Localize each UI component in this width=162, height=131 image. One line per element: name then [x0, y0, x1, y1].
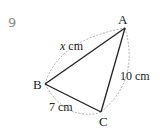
triangle-diagram: 9 A B C x cm 10 cm 7 cm — [0, 0, 162, 131]
question-number: 9 — [8, 15, 16, 30]
side-label-bc: 7 cm — [49, 100, 73, 114]
vertex-label-a: A — [118, 12, 128, 27]
vertex-label-b: B — [33, 77, 42, 92]
vertex-label-c: C — [99, 114, 108, 129]
side-label-ac: 10 cm — [120, 69, 150, 83]
side-label-ab: x cm — [59, 39, 84, 53]
side-ab — [45, 28, 125, 84]
side-label-ab-unit: cm — [65, 39, 83, 53]
